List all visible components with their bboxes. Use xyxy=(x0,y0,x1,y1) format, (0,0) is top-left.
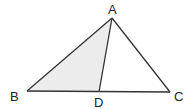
label-a: A xyxy=(108,3,117,16)
triangle-diagram xyxy=(0,0,191,109)
label-b: B xyxy=(10,90,19,103)
label-d: D xyxy=(94,96,103,109)
segment-ac xyxy=(112,18,170,92)
label-c: C xyxy=(174,90,183,103)
